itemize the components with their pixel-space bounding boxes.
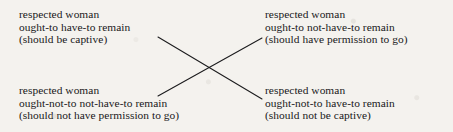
top-left-line-2: ought-to have-to remain: [19, 21, 130, 34]
bottom-left-line-3: (should not have permission to go): [19, 109, 179, 122]
bottom-right-line-1: respected woman: [265, 84, 395, 97]
bottom-right-line-2: ought-not-to have-to remain: [265, 97, 395, 110]
opposition-diagram: respected woman ought-to have-to remain …: [0, 0, 453, 132]
top-right-line-1: respected woman: [265, 8, 408, 21]
top-left-line-3: (should be captive): [19, 33, 130, 46]
top-right-line-2: ought-to not-have-to remain: [265, 21, 408, 34]
bottom-left-proposition: respected woman ought-not-to not-have-to…: [19, 84, 179, 122]
bottom-left-line-2: ought-not-to not-have-to remain: [19, 97, 179, 110]
bottom-left-line-1: respected woman: [19, 84, 179, 97]
bottom-right-proposition: respected woman ought-not-to have-to rem…: [265, 84, 395, 122]
top-left-line-1: respected woman: [19, 8, 130, 21]
top-left-proposition: respected woman ought-to have-to remain …: [19, 8, 130, 46]
top-right-proposition: respected woman ought-to not-have-to rem…: [265, 8, 408, 46]
top-right-line-3: (should have permission to go): [265, 33, 408, 46]
bottom-right-line-3: (should not be captive): [265, 109, 395, 122]
